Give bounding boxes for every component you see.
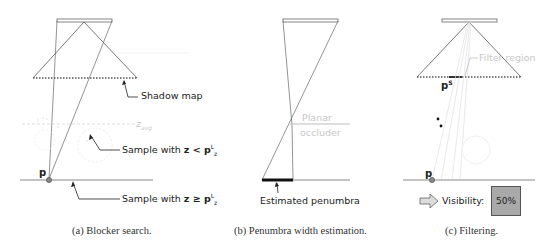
panel-c-graphics xyxy=(403,19,535,208)
point-p-label-a: p xyxy=(39,167,46,178)
planar-label: Planar xyxy=(302,112,332,123)
caption-c: (c) Filtering. xyxy=(445,225,498,236)
visibility-label: Visibility: xyxy=(442,195,484,206)
caption-a: (a) Blocker search. xyxy=(72,225,152,236)
estimated-penumbra-label: Estimated penumbra xyxy=(260,195,360,206)
visibility-value-box: 50% xyxy=(491,186,521,216)
shadow-map-label: Shadow map xyxy=(141,90,203,101)
sample-less-label: Sample with z < pLz xyxy=(122,143,217,157)
occluder-label: occluder xyxy=(300,127,341,138)
light-source-b xyxy=(283,19,338,22)
filter-region-label: Filter region xyxy=(479,52,536,63)
point-ps-label: pS xyxy=(441,79,453,91)
visibility-arrow-icon xyxy=(420,194,438,208)
point-p-a xyxy=(46,177,51,182)
point-p-label-c: p xyxy=(425,168,432,179)
z-avg-label: zavg xyxy=(136,118,152,131)
caption-b: (b) Penumbra width estimation. xyxy=(234,225,367,236)
panel-b-graphics xyxy=(262,19,350,193)
light-source-a xyxy=(57,19,112,22)
light-source-c xyxy=(442,19,497,22)
sample-geq-label: Sample with z ≥ pLz xyxy=(122,192,217,206)
diagram-canvas xyxy=(0,0,548,249)
